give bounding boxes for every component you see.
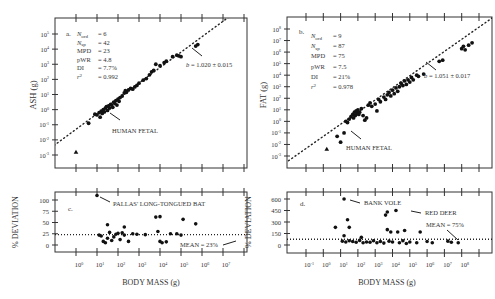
y-tick-label: 107: [272, 37, 281, 45]
data-point: [99, 234, 103, 238]
data-point: [389, 230, 393, 234]
data-point: [118, 238, 122, 242]
data-point: [379, 240, 383, 244]
data-point: [117, 99, 121, 103]
data-point: [339, 140, 343, 144]
data-point: [463, 48, 467, 52]
data-point: [360, 236, 364, 240]
data-point: [387, 239, 391, 243]
stat-label: pWR: [311, 63, 325, 70]
data-point: [365, 116, 369, 120]
y-tick-label: 100: [272, 117, 281, 125]
data-point: [386, 228, 390, 232]
stat-value: = 4.8: [98, 56, 111, 63]
stat-label: MPD: [311, 52, 325, 59]
data-point: [169, 232, 173, 236]
data-point: [462, 44, 466, 48]
x-tick-label: 106: [426, 261, 435, 269]
data-point: [403, 229, 407, 233]
annotation-pointer: [411, 211, 421, 213]
data-point: [401, 84, 405, 88]
data-point: [354, 241, 358, 245]
stat-label: pWR: [77, 56, 91, 63]
data-point: [387, 91, 391, 95]
data-point: [425, 240, 429, 244]
data-point: [378, 100, 382, 104]
y-tick-label: 450: [271, 207, 281, 214]
x-tick-label: 107: [222, 261, 231, 269]
stat-value: = 0.992: [98, 73, 118, 80]
data-point: [175, 232, 179, 236]
stat-label: Nsp: [76, 39, 86, 48]
data-point: [194, 222, 198, 226]
data-point: [123, 225, 127, 229]
fit-pointer: [192, 48, 202, 56]
y-tick-label: 108: [272, 25, 281, 33]
data-point: [370, 104, 374, 108]
y-tick-label: 101: [272, 106, 281, 114]
data-point: [411, 78, 415, 82]
data-point: [347, 226, 351, 230]
data-point: [347, 239, 351, 243]
x-tick-label: 101: [96, 261, 105, 269]
data-point: [408, 240, 412, 244]
triangle-point: [74, 150, 79, 154]
triangle-point: [324, 147, 329, 151]
x-tick-label: 102: [117, 261, 126, 269]
y-axis-label: % DEVIATION: [244, 196, 253, 248]
data-point: [401, 239, 405, 243]
x-tick-label: 10-1: [304, 261, 314, 269]
y-axis-label: ASH (g): [28, 80, 38, 109]
data-point: [179, 55, 183, 59]
x-axis-label: BODY MASS (g): [358, 278, 416, 287]
stat-value: = 9: [333, 32, 342, 39]
data-point: [365, 240, 369, 244]
data-point: [115, 103, 119, 107]
panel-letter: d.: [300, 200, 306, 208]
fit-label: b = 1.020 ± 0.015: [186, 61, 232, 68]
annotation-bank-vole: BANK VOLE: [364, 199, 401, 206]
y-tick-label: 10-2: [271, 140, 281, 148]
data-point: [361, 114, 365, 118]
data-point: [116, 232, 120, 236]
data-point: [98, 115, 102, 119]
data-point: [342, 234, 346, 238]
data-point: [394, 86, 398, 90]
data-point: [342, 131, 346, 135]
x-tick-label: 105: [409, 261, 418, 269]
data-point: [181, 218, 185, 222]
stat-value: = 6: [98, 30, 107, 37]
y-tick-label: 103: [272, 83, 281, 91]
x-tick-label: 103: [374, 261, 383, 269]
data-point: [160, 241, 164, 245]
data-point: [368, 101, 372, 105]
y-tick-label: 106: [272, 48, 281, 56]
data-point: [123, 233, 127, 237]
x-tick-label: 105: [180, 261, 189, 269]
data-point: [179, 233, 183, 237]
stat-value: = 75: [333, 52, 345, 59]
data-point: [104, 241, 108, 245]
data-point: [135, 232, 139, 236]
data-point: [389, 94, 393, 98]
stat-value: = 7.7%: [98, 64, 117, 71]
data-point: [456, 241, 460, 245]
data-point: [373, 102, 377, 106]
y-tick-label: 300: [271, 219, 281, 226]
data-point: [152, 68, 156, 72]
y-tick-label: 100: [39, 197, 49, 204]
data-point: [408, 80, 412, 84]
data-point: [351, 240, 355, 244]
stat-value: = 7.5: [333, 63, 346, 70]
y-axis-label: % DEVIATION: [11, 196, 20, 248]
stat-label: MPD: [77, 47, 91, 54]
data-point: [154, 215, 158, 219]
data-point: [404, 83, 408, 87]
data-point: [415, 241, 419, 245]
y-tick-label: 50: [43, 219, 50, 226]
y-tick-label: 10-1: [39, 121, 49, 129]
data-point: [108, 231, 112, 235]
data-point: [437, 59, 441, 63]
data-point: [450, 241, 454, 245]
annotation-pointer: [100, 197, 110, 202]
